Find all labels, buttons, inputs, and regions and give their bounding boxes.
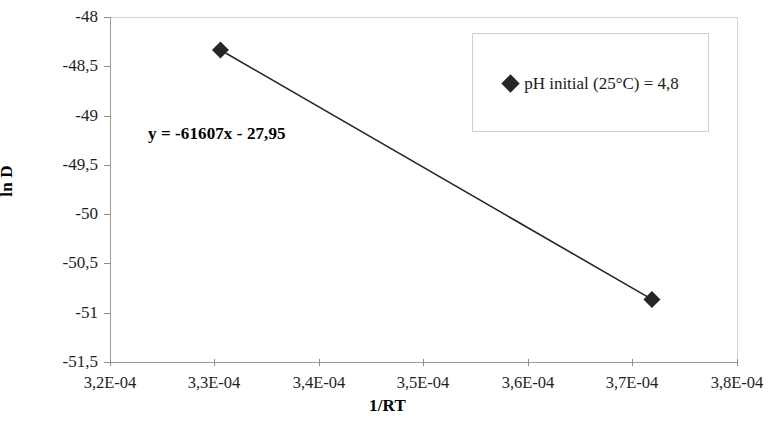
legend-item-label: pH initial (25°C) = 4,8 <box>524 74 679 94</box>
data-point-marker <box>212 42 229 59</box>
chart-legend: pH initial (25°C) = 4,8 <box>472 33 709 132</box>
data-point-marker <box>643 291 660 308</box>
legend-item-ph-initial: pH initial (25°C) = 4,8 <box>473 34 710 133</box>
chart-container: -48-48,5-49-49,5-50-50,5-51-51,5 3,2E-04… <box>0 0 775 432</box>
trendline-equation-label: y = -61607x - 27,95 <box>148 124 286 144</box>
diamond-marker-icon <box>501 74 519 92</box>
